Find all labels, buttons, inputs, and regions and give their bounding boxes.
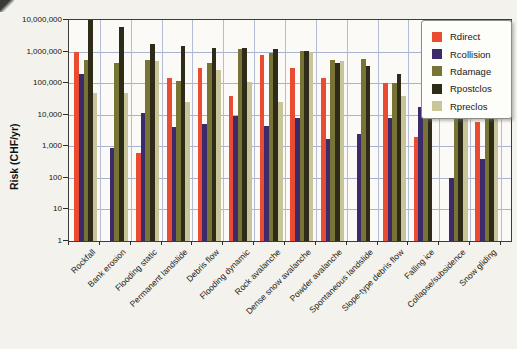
x-tick-mark — [284, 241, 285, 245]
x-tick-mark — [377, 241, 378, 245]
x-tick-mark — [68, 241, 69, 245]
bar-rpostclos — [428, 110, 433, 241]
y-tick-label: 10,000 — [2, 110, 62, 119]
x-tick-mark — [253, 241, 254, 245]
x-tick-mark — [500, 241, 501, 245]
x-tick-mark — [315, 241, 316, 245]
y-tick-mark — [63, 114, 68, 115]
vertical-gridline — [408, 20, 409, 241]
y-tick-mark — [63, 145, 68, 146]
legend-swatch-rdamage — [432, 66, 442, 76]
legend-item: Rpostclos — [432, 80, 511, 97]
x-tick-mark — [130, 241, 131, 245]
x-tick-mark — [191, 241, 192, 245]
y-tick-label: 10,000,000 — [2, 15, 62, 24]
bar-rpreclos — [155, 61, 160, 241]
bar-rpreclos — [247, 82, 252, 241]
bar-rpreclos — [216, 70, 221, 241]
legend: RdirectRcollisionRdamageRpostclosRpreclo… — [421, 20, 512, 119]
legend-item: Rpreclos — [432, 98, 511, 115]
y-tick-label: 10 — [2, 204, 62, 213]
x-category-label-text: Slope-type debris flow — [340, 247, 406, 313]
legend-label: Rpostclos — [450, 83, 492, 94]
x-tick-mark — [222, 241, 223, 245]
vertical-gridline — [254, 20, 255, 241]
x-tick-mark — [346, 241, 347, 245]
x-tick-mark — [438, 241, 439, 245]
legend-label: Rdamage — [450, 66, 491, 77]
vertical-gridline — [378, 20, 379, 241]
legend-swatch-rdirect — [432, 32, 442, 42]
x-tick-mark — [407, 241, 408, 245]
chart-page: Risk (CHF/yr) 10,000,0001,000,000100,000… — [0, 0, 517, 349]
vertical-gridline — [223, 20, 224, 241]
legend-swatch-rpostclos — [432, 84, 442, 94]
y-tick-label: 100 — [2, 173, 62, 182]
vertical-gridline — [285, 20, 286, 241]
vertical-gridline — [162, 20, 163, 241]
legend-label: Rpreclos — [450, 101, 488, 112]
bar-rpreclos — [309, 52, 314, 241]
vertical-gridline — [192, 20, 193, 241]
bar-rpreclos — [278, 102, 283, 241]
x-tick-mark — [99, 241, 100, 245]
legend-item: Rcollision — [432, 45, 511, 62]
legend-label: Rcollision — [450, 49, 491, 60]
bar-rpreclos — [401, 96, 406, 241]
bar-rpreclos — [340, 61, 345, 241]
vertical-gridline — [316, 20, 317, 241]
vertical-gridline — [100, 20, 101, 241]
y-tick-mark — [63, 82, 68, 83]
bar-rpreclos — [93, 93, 98, 241]
legend-swatch-rcollision — [432, 49, 442, 59]
bar-rpostclos — [366, 66, 371, 241]
x-category-label-text: Permanent landslide — [128, 247, 190, 309]
y-tick-mark — [63, 177, 68, 178]
legend-swatch-rpreclos — [432, 101, 442, 111]
y-tick-label: 1,000 — [2, 141, 62, 150]
x-category-label-text: Rockfall — [69, 247, 97, 275]
y-tick-label: 1,000,000 — [2, 47, 62, 56]
y-tick-mark — [63, 51, 68, 52]
y-tick-label: 100,000 — [2, 78, 62, 87]
y-tick-label: 1 — [2, 236, 62, 245]
y-tick-mark — [63, 208, 68, 209]
scan-corner-artifact — [0, 0, 14, 12]
bar-rpreclos — [124, 93, 129, 241]
vertical-gridline — [347, 20, 348, 241]
vertical-gridline — [131, 20, 132, 241]
y-tick-mark — [63, 19, 68, 20]
x-tick-mark — [161, 241, 162, 245]
legend-item: Rdamage — [432, 63, 511, 80]
legend-item: Rdirect — [432, 28, 511, 45]
x-tick-mark — [469, 241, 470, 245]
legend-label: Rdirect — [450, 31, 480, 42]
bar-rpreclos — [185, 102, 190, 241]
